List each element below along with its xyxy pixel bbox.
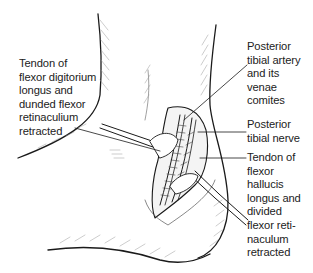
heel-outline (48, 248, 210, 263)
label-posterior-tibial-artery: Posterior tibial artery and its venae co… (247, 40, 313, 108)
anatomy-illustration: Tendon of flexor digitorium longus and d… (0, 0, 313, 273)
leader-pta (184, 65, 247, 120)
label-flexor-digitorum-longus: Tendon of flexor digitorium longus and d… (19, 57, 129, 139)
retractor-lower (170, 171, 248, 225)
label-flexor-hallucis-longus: Tendon of flexor hallucis longus and div… (247, 151, 313, 260)
label-posterior-tibial-nerve: Posterior tibial nerve (247, 118, 313, 145)
